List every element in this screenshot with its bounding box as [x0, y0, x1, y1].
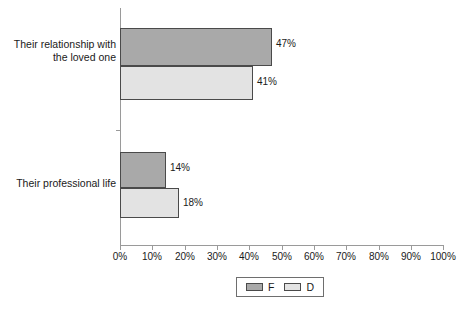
x-axis-label-100: 100% — [423, 251, 463, 262]
legend-label-d: D — [306, 281, 314, 293]
legend-swatch-d-icon — [284, 283, 301, 291]
x-axis-tick-50 — [282, 246, 283, 250]
x-axis-tick-10 — [152, 246, 153, 250]
x-axis-tick-90 — [411, 246, 412, 250]
x-axis-tick-80 — [379, 246, 380, 250]
category-label-relationship: Their relationship with the loved one — [4, 38, 116, 64]
y-axis-tick-separator — [116, 130, 120, 131]
chart-legend: F D — [236, 277, 324, 297]
bar-d-professional-life — [120, 188, 179, 218]
legend-item-d: D — [284, 281, 314, 293]
bar-f-professional-life — [120, 152, 166, 188]
bar-chart: Their relationship with the loved one Th… — [0, 0, 465, 311]
bar-d-relationship — [120, 66, 253, 100]
x-axis-tick-0 — [120, 246, 121, 250]
bar-value-f-professional-life: 14% — [170, 162, 190, 173]
legend-swatch-f-icon — [246, 283, 263, 291]
bar-f-relationship — [120, 28, 272, 66]
bar-value-f-relationship: 47% — [276, 38, 296, 49]
x-axis-tick-20 — [185, 246, 186, 250]
bar-value-d-relationship: 41% — [257, 76, 277, 87]
category-label-professional-life: Their professional life — [4, 177, 116, 190]
x-axis-tick-70 — [346, 246, 347, 250]
legend-label-f: F — [268, 281, 274, 293]
x-axis-tick-40 — [249, 246, 250, 250]
x-axis-tick-30 — [217, 246, 218, 250]
bar-value-d-professional-life: 18% — [183, 197, 203, 208]
legend-item-f: F — [246, 281, 274, 293]
x-axis-tick-60 — [314, 246, 315, 250]
x-axis-tick-100 — [443, 246, 444, 250]
